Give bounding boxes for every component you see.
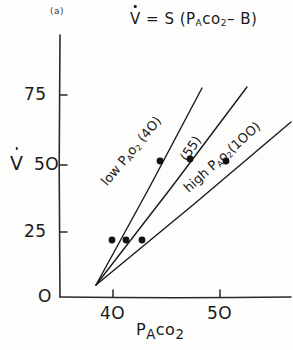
series-line-2 [96, 122, 291, 285]
x-axis-line [60, 297, 291, 298]
figure-panel-a: (a) V = S (PAco2– B) V 75 5O 25 O 4O 5O … [0, 0, 293, 350]
data-point-s0-p1 [157, 158, 164, 165]
y-axis-line [59, 35, 60, 297]
data-point-s1-p0 [123, 237, 130, 244]
data-point-s0-p0 [109, 237, 116, 244]
series-line-1 [96, 87, 247, 285]
data-point-s1-p1 [187, 156, 194, 163]
data-point-s2-p0 [139, 237, 146, 244]
series-line-0 [96, 88, 202, 285]
data-point-s2-p1 [223, 158, 230, 165]
data-lines [96, 87, 291, 285]
axis-ticks [60, 95, 220, 297]
axis-group [59, 35, 291, 298]
plot-canvas [0, 0, 293, 350]
